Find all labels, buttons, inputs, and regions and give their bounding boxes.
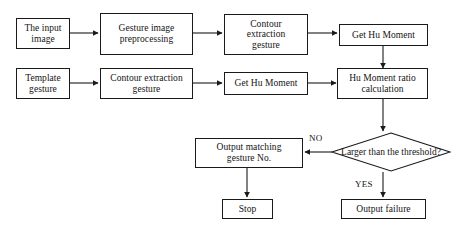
node-template-gesture[interactable]: Template gesture (16, 68, 70, 99)
node-stop[interactable]: Stop (222, 199, 273, 219)
node-template-line1: Template (25, 73, 61, 84)
node-threshold-line2: threshold? (401, 147, 441, 157)
node-input-image-line1: The input (24, 23, 61, 34)
node-contour-top-line1: Contour (247, 19, 285, 30)
node-hu-moment-ratio-calculation[interactable]: Hu Moment ratio calculation (337, 68, 428, 99)
node-template-line2: gesture (25, 84, 61, 95)
edge-label-yes: YES (355, 179, 373, 189)
node-threshold-label: Larger than the threshold? (331, 132, 451, 172)
node-output-matching-line1: Output matching (217, 142, 282, 153)
node-output-matching-gesture-no[interactable]: Output matching gesture No. (195, 138, 303, 168)
node-contour-top-line2: extraction (247, 29, 285, 40)
node-contour-bottom-line1: Contour extraction (110, 73, 182, 84)
node-gesture-image-preprocessing[interactable]: Gesture image preprocessing (100, 13, 193, 55)
node-hu-bottom-line1: Get Hu Moment (235, 78, 298, 89)
node-output-matching-line2: gesture No. (217, 153, 282, 164)
node-preprocessing-line2: preprocessing (119, 34, 175, 45)
node-contour-extraction-gesture-bottom[interactable]: Contour extraction gesture (100, 68, 193, 99)
node-ratio-line2: calculation (349, 84, 416, 95)
node-hu-top-line1: Get Hu Moment (352, 30, 415, 41)
edge-label-no: NO (309, 133, 322, 143)
node-contour-extraction-gesture-top[interactable]: Contour extraction gesture (224, 14, 308, 55)
node-preprocessing-line1: Gesture image (119, 23, 175, 34)
node-contour-top-line3: gesture (247, 40, 285, 51)
node-input-image-line2: image (24, 34, 61, 45)
node-threshold-line1: Larger than the (341, 147, 399, 157)
node-contour-bottom-line2: gesture (110, 84, 182, 95)
flowchart-canvas: The input image Gesture image preprocess… (0, 0, 455, 236)
node-get-hu-moment-bottom[interactable]: Get Hu Moment (224, 72, 308, 95)
node-output-failure-line1: Output failure (356, 204, 410, 215)
node-threshold-decision[interactable]: Larger than the threshold? (331, 132, 451, 172)
node-get-hu-moment-top[interactable]: Get Hu Moment (339, 24, 428, 46)
node-ratio-line1: Hu Moment ratio (349, 73, 416, 84)
node-input-image[interactable]: The input image (16, 18, 70, 49)
node-stop-line1: Stop (239, 204, 257, 215)
node-output-failure[interactable]: Output failure (341, 199, 426, 219)
